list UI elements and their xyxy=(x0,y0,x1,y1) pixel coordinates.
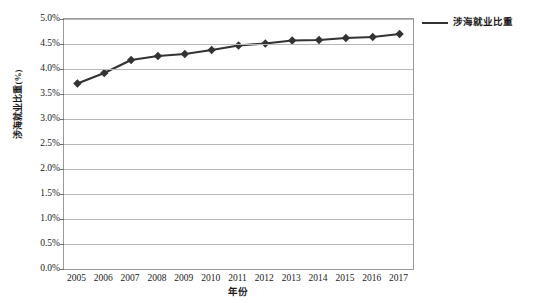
y-axis-tick xyxy=(60,94,64,95)
gridline xyxy=(64,69,413,70)
gridline xyxy=(64,144,413,145)
legend-label: 涉海就业比重 xyxy=(453,17,513,28)
y-axis-tick-label: 4.5% xyxy=(24,38,60,48)
y-axis-tick xyxy=(60,169,64,170)
y-axis-tick-label: 4.0% xyxy=(24,63,60,73)
y-axis-tick-label: 2.5% xyxy=(24,138,60,148)
data-point-marker xyxy=(127,56,135,64)
gridline xyxy=(64,244,413,245)
data-point-marker xyxy=(234,41,242,49)
y-axis-tick-label: 1.5% xyxy=(24,188,60,198)
y-axis-tick xyxy=(60,69,64,70)
x-axis-tick-labels: 2005200620072008200920102011201220132014… xyxy=(0,272,540,286)
data-point-marker xyxy=(207,46,215,54)
legend-line-icon xyxy=(422,18,448,28)
y-axis-tick xyxy=(60,144,64,145)
line-chart: 涉海就业比重(%) 0.0%0.5%1.0%1.5%2.0%2.5%3.0%3.… xyxy=(0,0,540,303)
y-axis-tick xyxy=(60,269,64,270)
data-point-marker xyxy=(181,50,189,58)
x-axis-title: 年份 xyxy=(63,286,412,298)
gridline xyxy=(64,219,413,220)
y-axis-tick-label: 2.0% xyxy=(24,163,60,173)
y-axis-tick-label: 3.0% xyxy=(24,113,60,123)
plot-area xyxy=(63,18,414,270)
y-axis-tick xyxy=(60,219,64,220)
gridline xyxy=(64,44,413,45)
y-axis-tick xyxy=(60,44,64,45)
gridline xyxy=(64,169,413,170)
x-axis-tick-label: 2017 xyxy=(379,272,419,284)
gridline xyxy=(64,19,413,20)
data-point-marker xyxy=(154,52,162,60)
gridline xyxy=(64,119,413,120)
data-point-marker xyxy=(395,30,403,38)
gridline xyxy=(64,194,413,195)
data-point-marker xyxy=(342,34,350,42)
y-axis-tick-label: 0.5% xyxy=(24,238,60,248)
chart-legend: 涉海就业比重 xyxy=(422,17,513,28)
y-axis-tick-labels: 0.0%0.5%1.0%1.5%2.0%2.5%3.0%3.5%4.0%4.5%… xyxy=(24,0,60,303)
data-point-marker xyxy=(315,36,323,44)
y-axis-tick xyxy=(60,19,64,20)
gridline xyxy=(64,94,413,95)
y-axis-tick-label: 3.5% xyxy=(24,88,60,98)
data-point-marker xyxy=(100,69,108,77)
y-axis-tick xyxy=(60,119,64,120)
data-point-marker xyxy=(369,33,377,41)
y-axis-tick-label: 5.0% xyxy=(24,13,60,23)
y-axis-tick xyxy=(60,194,64,195)
y-axis-tick-label: 1.0% xyxy=(24,213,60,223)
y-axis-tick xyxy=(60,244,64,245)
data-point-marker xyxy=(73,79,81,87)
